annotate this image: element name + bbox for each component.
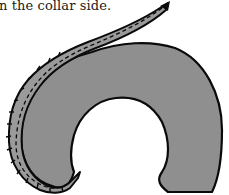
collar-diagram-figure: [0, 0, 229, 195]
